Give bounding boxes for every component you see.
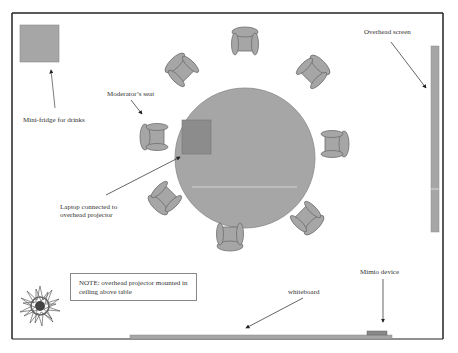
moderator-seat-label: Moderator’s seat <box>107 90 154 99</box>
chair-bottom <box>217 223 244 251</box>
laptop-label-line2: overhead projector <box>60 211 113 220</box>
chair-top <box>232 27 259 55</box>
mini-fridge <box>20 25 59 62</box>
round-table <box>175 88 315 228</box>
note-line1: NOTE: overhead projector mounted in <box>79 279 196 288</box>
moderator-arrow <box>131 100 142 114</box>
mimio-device <box>367 331 387 335</box>
chair-right <box>321 131 349 158</box>
chair-bottom-left <box>145 179 184 218</box>
whiteboard-arrow <box>246 298 303 328</box>
laptop <box>182 120 211 154</box>
mimio-label: Mimio device <box>360 268 399 277</box>
note-line2: ceiling above table <box>79 288 196 297</box>
chair-top-left <box>162 50 201 89</box>
overhead-screen <box>431 46 439 232</box>
screen-arrow <box>391 42 426 88</box>
overhead-screen-label: Overhead screen <box>364 28 411 37</box>
projector-note: NOTE: overhead projector mounted in ceil… <box>70 273 197 301</box>
plant-icon <box>20 286 60 326</box>
chair-top-right <box>294 52 333 91</box>
fridge-arrow <box>51 70 55 108</box>
whiteboard-label: whiteboard <box>288 288 320 297</box>
floor-plan <box>0 0 458 353</box>
whiteboard <box>130 335 392 339</box>
chair-moderator <box>140 124 168 151</box>
mini-fridge-label: Mini-fridge for drinks <box>23 116 85 125</box>
